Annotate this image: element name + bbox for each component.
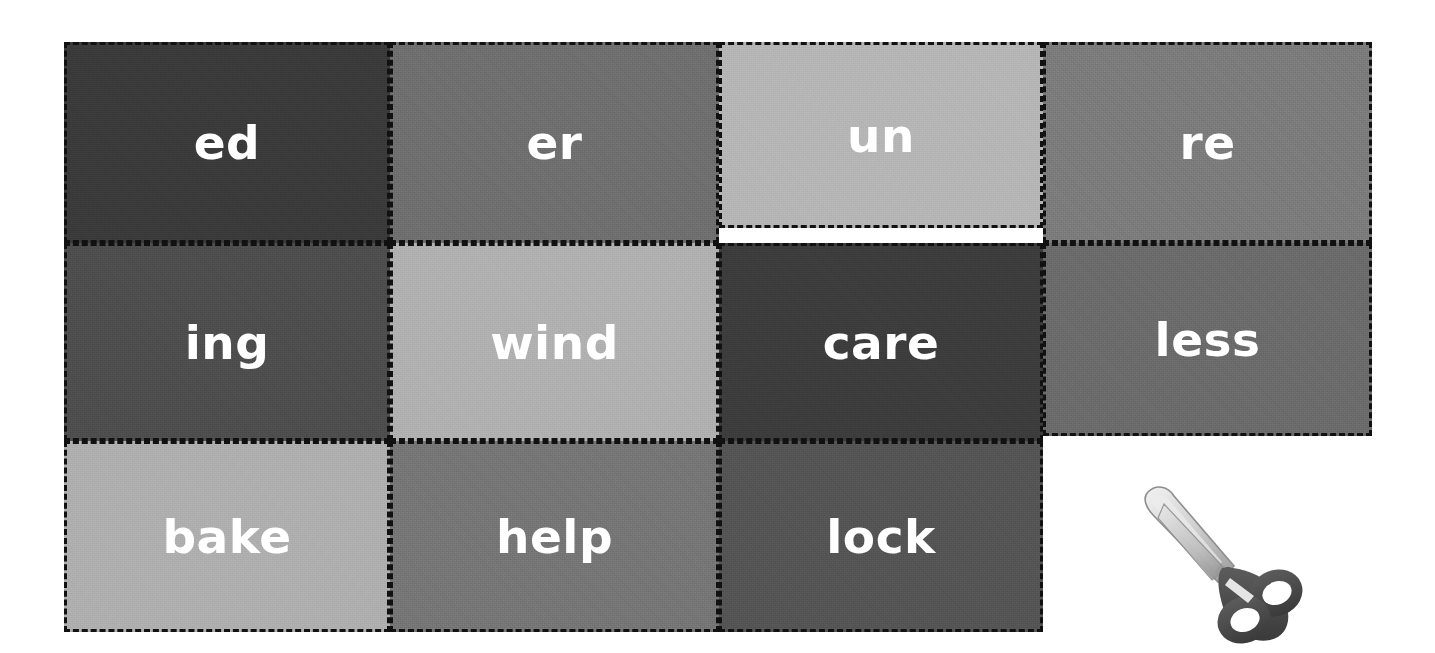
word-card[interactable]: er: [390, 42, 719, 243]
word-card-label: help: [496, 513, 613, 560]
worksheet-canvas: ederunreingwindcarelessbakehelplock: [0, 0, 1435, 653]
scissors-icon: [1130, 470, 1320, 645]
word-card[interactable]: bake: [64, 441, 390, 632]
word-card-label: wind: [490, 319, 619, 366]
word-card-label: less: [1155, 316, 1261, 363]
word-card-label: un: [847, 112, 915, 159]
word-card[interactable]: less: [1043, 243, 1372, 436]
word-card-label: ed: [194, 119, 261, 166]
word-card[interactable]: help: [390, 441, 719, 632]
word-card-label: er: [526, 119, 582, 166]
word-card-label: lock: [826, 513, 936, 560]
word-card[interactable]: ing: [64, 243, 390, 441]
word-card-label: ing: [185, 319, 270, 366]
word-card[interactable]: wind: [390, 243, 719, 441]
word-card[interactable]: un: [719, 42, 1043, 228]
word-card-label: re: [1179, 119, 1235, 166]
word-card[interactable]: ed: [64, 42, 390, 243]
word-card[interactable]: re: [1043, 42, 1372, 243]
word-card-label: bake: [162, 513, 291, 560]
word-card-label: care: [823, 319, 940, 366]
word-card[interactable]: care: [719, 243, 1043, 441]
word-card[interactable]: lock: [719, 441, 1043, 632]
